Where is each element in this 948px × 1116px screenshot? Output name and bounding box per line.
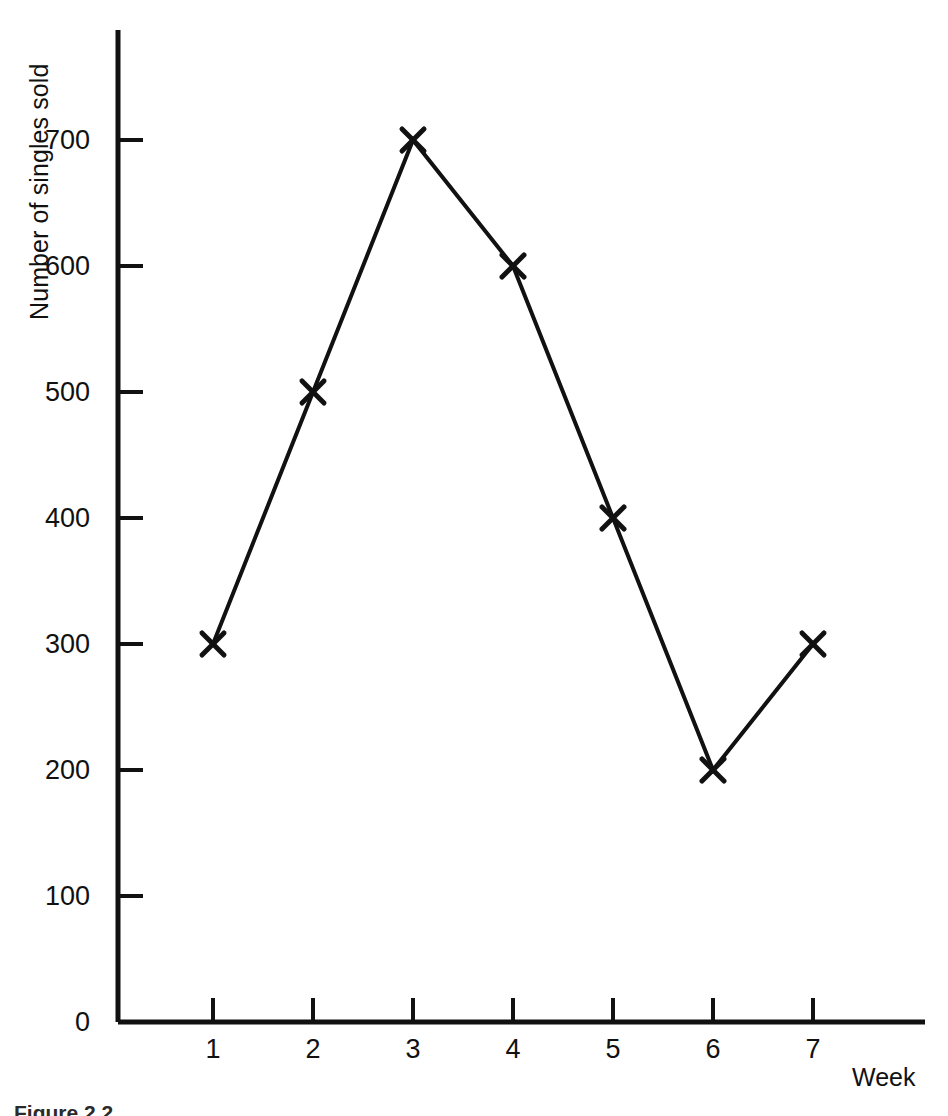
data-point-markers: [202, 129, 824, 781]
y-tick-label-400: 400: [14, 503, 90, 533]
figure-container: Number of singles sold 0 100 200 300 400…: [0, 0, 948, 1116]
x-tick-label-6: 6: [693, 1034, 733, 1064]
figure-caption: Figure 2.2: [14, 1101, 113, 1116]
data-series-line: [213, 140, 813, 770]
y-tick-label-100: 100: [14, 881, 90, 911]
data-point-marker: [402, 129, 424, 151]
y-tick-label-500: 500: [14, 377, 90, 407]
x-tick-label-3: 3: [393, 1034, 433, 1064]
y-tick-label-0: 0: [14, 1007, 90, 1037]
x-axis-tick-marks: [213, 998, 813, 1022]
x-axis-title: Week: [852, 1061, 915, 1093]
data-point-marker: [202, 633, 224, 655]
y-tick-label-600: 600: [14, 251, 90, 281]
line-chart-plot: [0, 0, 948, 1116]
x-tick-label-1: 1: [193, 1034, 233, 1064]
data-point-marker: [702, 759, 724, 781]
x-tick-label-5: 5: [593, 1034, 633, 1064]
x-tick-label-2: 2: [293, 1034, 333, 1064]
data-point-marker: [502, 255, 524, 277]
data-point-marker: [302, 381, 324, 403]
y-axis-tick-marks: [118, 140, 143, 896]
data-point-marker: [602, 507, 624, 529]
y-tick-label-700: 700: [14, 125, 90, 155]
x-tick-label-7: 7: [793, 1034, 833, 1064]
y-tick-label-300: 300: [14, 629, 90, 659]
data-point-marker: [802, 633, 824, 655]
x-tick-label-4: 4: [493, 1034, 533, 1064]
y-tick-label-200: 200: [14, 755, 90, 785]
